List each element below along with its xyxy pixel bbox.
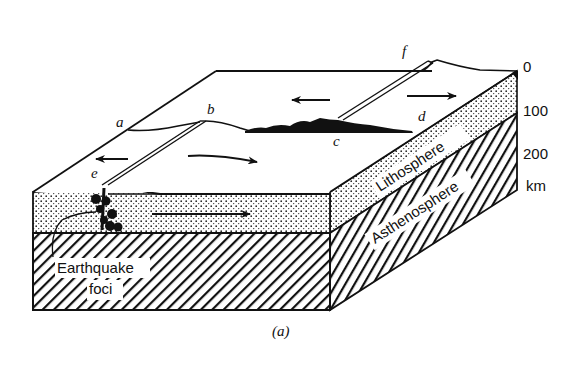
label-b: b: [207, 101, 215, 117]
plate-tectonics-block-diagram: a b c d e f Lithosphere Asthenosphere Ea…: [0, 0, 585, 366]
label-a: a: [116, 114, 124, 130]
front-face: [33, 181, 330, 310]
foci-label-line1: Earthquake: [57, 259, 134, 276]
depth-tick-100: 100: [523, 102, 548, 119]
label-f: f: [402, 43, 408, 59]
label-e: e: [91, 165, 98, 181]
depth-scale: 0 100 200 km: [523, 58, 548, 194]
label-d: d: [418, 108, 426, 124]
depth-tick-0: 0: [523, 58, 531, 75]
foci-label-line2: foci: [89, 280, 112, 297]
depth-unit: km: [526, 177, 546, 194]
figure-caption: (a): [272, 323, 290, 340]
ridge-profile-back: [422, 60, 517, 71]
label-c: c: [333, 133, 340, 149]
depth-tick-200: 200: [523, 145, 548, 162]
